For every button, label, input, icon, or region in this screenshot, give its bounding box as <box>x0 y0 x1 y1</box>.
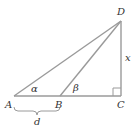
label-point-c: C <box>117 99 125 110</box>
label-point-a: A <box>4 99 12 110</box>
segment-bd <box>60 21 121 96</box>
brace-d <box>14 107 60 115</box>
right-angle-marker <box>113 88 121 96</box>
label-point-d: D <box>116 6 125 17</box>
label-length-d: d <box>34 116 40 127</box>
label-angle-alpha: α <box>31 83 38 94</box>
label-point-b: B <box>54 99 62 110</box>
label-length-x: x <box>125 52 131 63</box>
label-angle-beta: β <box>72 82 79 93</box>
triangle-diagram: D x C B A α β d <box>0 0 139 128</box>
